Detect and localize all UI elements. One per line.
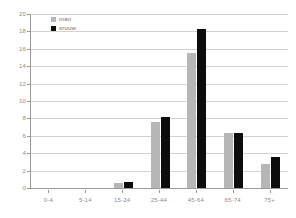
bar: [261, 164, 270, 188]
legend-item-label: man: [59, 16, 71, 23]
y-axis-tick-mark: [27, 31, 30, 32]
y-axis-tick-label: 0: [4, 185, 26, 191]
bar: [234, 133, 243, 188]
y-axis-tick-label: 6: [4, 133, 26, 139]
bar-chart: 02468101214161820 0-45-1415-2425-4445-64…: [0, 0, 296, 218]
x-axis-line: [30, 188, 288, 189]
bars-layer: [31, 14, 288, 188]
y-axis-tick-label: 10: [4, 98, 26, 104]
x-axis-tick-mark: [270, 190, 271, 193]
x-axis-tick-mark: [48, 190, 49, 193]
legend-item: man: [51, 15, 111, 23]
bar: [187, 53, 196, 188]
y-axis-tick-mark: [27, 171, 30, 172]
y-axis-tick-mark: [27, 153, 30, 154]
y-axis-tick-label: 18: [4, 28, 26, 34]
y-axis-tick-label: 16: [4, 46, 26, 52]
y-axis-tick-mark: [27, 66, 30, 67]
bar: [161, 117, 170, 188]
y-axis-ticks: 02468101214161820: [0, 14, 26, 189]
bar: [197, 29, 206, 188]
legend-item-label: srouw: [59, 25, 76, 32]
y-axis-tick-label: 20: [4, 11, 26, 17]
y-axis-tick-label: 2: [4, 168, 26, 174]
bar: [224, 133, 233, 188]
y-axis-tick-mark: [27, 14, 30, 15]
x-axis-tick-mark: [122, 190, 123, 193]
x-axis-tick-label: 65-74: [213, 197, 253, 204]
bar: [151, 122, 160, 188]
legend-swatch-icon: [51, 17, 56, 22]
y-axis-tick-mark: [27, 101, 30, 102]
x-axis-tick-label: 75+: [250, 197, 290, 204]
x-axis-tick-label: 0-4: [28, 197, 68, 204]
x-axis-tick-label: 5-14: [65, 197, 105, 204]
legend-item: srouw: [51, 24, 111, 32]
y-axis-line: [30, 14, 31, 189]
y-axis-tick-label: 4: [4, 150, 26, 156]
y-axis-tick-mark: [27, 136, 30, 137]
x-axis-tick-mark: [159, 190, 160, 193]
legend: man srouw: [51, 15, 111, 33]
y-axis-tick-mark: [27, 84, 30, 85]
y-axis-tick-label: 12: [4, 81, 26, 87]
x-axis-tick-label: 25-44: [139, 197, 179, 204]
y-axis-tick-mark: [27, 118, 30, 119]
x-axis-tick-mark: [85, 190, 86, 193]
y-axis-tick-mark: [27, 49, 30, 50]
x-axis-tick-label: 45-64: [176, 197, 216, 204]
x-axis-tick-label: 15-24: [102, 197, 142, 204]
x-axis-tick-mark: [196, 190, 197, 193]
bar: [271, 157, 280, 188]
y-axis-tick-mark: [27, 188, 30, 189]
y-axis-tick-label: 14: [4, 63, 26, 69]
legend-swatch-icon: [51, 26, 56, 31]
x-axis-tick-mark: [233, 190, 234, 193]
x-axis-ticks: 0-45-1415-2425-4445-6465-7475+: [30, 190, 288, 216]
y-axis-tick-label: 8: [4, 115, 26, 121]
